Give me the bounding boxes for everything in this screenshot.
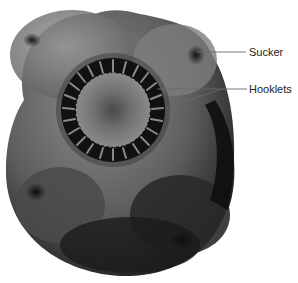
scolex-micrograph — [0, 0, 298, 283]
diagram-figure: Sucker Hooklets — [0, 0, 298, 283]
rostellum — [56, 53, 170, 167]
sucker-label: Sucker — [249, 46, 283, 58]
hooklets-label: Hooklets — [249, 83, 292, 95]
